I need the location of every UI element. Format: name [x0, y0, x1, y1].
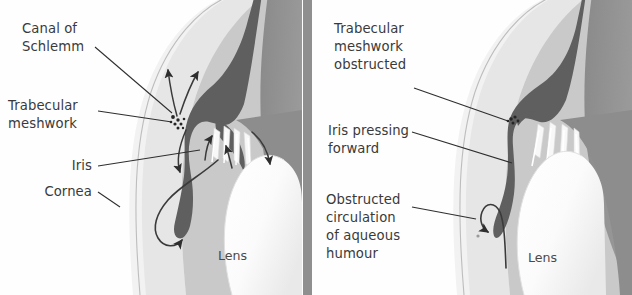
leader-cornea [98, 192, 120, 207]
flow-dot [476, 234, 479, 237]
label-lens-left: Lens [218, 248, 247, 263]
label-trabecular-meshwork: Trabecular meshwork [7, 98, 82, 131]
label-cornea: Cornea [44, 184, 92, 199]
label-trabecular-meshwork-obstructed: Trabecular meshwork obstructed [333, 21, 408, 72]
panel-divider [303, 0, 312, 295]
label-canal-of-schlemm: Canal of Schlemm [22, 21, 84, 54]
panel-normal-eye [129, 0, 302, 295]
label-lens-right: Lens [528, 250, 557, 265]
diagram-canvas: Canal of Schlemm Trabecular meshwork Iri… [0, 0, 632, 295]
label-obstructed-circulation: Obstructed circulation of aqueous humour [326, 192, 405, 261]
label-iris: Iris [72, 158, 92, 173]
eye-anatomy-figure: Canal of Schlemm Trabecular meshwork Iri… [0, 0, 632, 295]
label-iris-pressing-forward: Iris pressing forward [328, 123, 413, 156]
